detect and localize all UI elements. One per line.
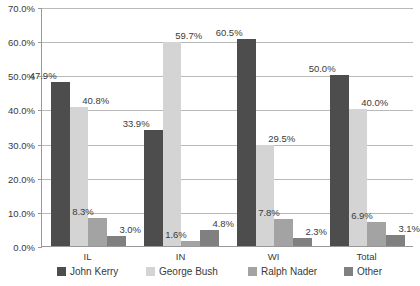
y-tickmark [38,8,42,9]
bar[interactable] [330,75,349,246]
bar[interactable] [144,130,163,246]
y-tickmark [38,42,42,43]
bar[interactable] [256,145,275,246]
y-tickmark [38,145,42,146]
bar[interactable] [51,82,70,246]
legend-item[interactable]: Other [344,266,382,277]
bar[interactable] [293,238,312,246]
legend-swatch-icon [146,267,155,276]
legend-label: John Kerry [70,266,118,277]
y-axis: 0.0%10.0%20.0%30.0%40.0%50.0%60.0%70.0% [0,8,38,247]
legend-item[interactable]: John Kerry [57,266,118,277]
bar[interactable] [386,235,405,246]
y-tick-label: 10.0% [8,207,35,218]
y-tick-label: 40.0% [8,105,35,116]
bar[interactable] [88,218,107,246]
bar-value-label: 50.0% [309,63,336,74]
bar-value-label: 40.8% [82,95,109,106]
bar-value-label: 3.0% [119,224,141,235]
bar[interactable] [349,109,368,246]
bar[interactable] [107,236,126,246]
y-tickmark [38,213,42,214]
bar-chart: 0.0%10.0%20.0%30.0%40.0%50.0%60.0%70.0% … [0,0,420,286]
y-tick-label: 20.0% [8,173,35,184]
y-tickmark [38,110,42,111]
legend-swatch-icon [344,267,353,276]
bar[interactable] [274,219,293,246]
bar[interactable] [163,42,182,246]
bar-value-label: 1.6% [165,229,187,240]
bar-value-label: 40.0% [361,97,388,108]
bar[interactable] [200,230,219,246]
bar-value-label: 47.9% [30,70,57,81]
legend-label: Other [357,266,382,277]
x-tick-label: WI [227,251,320,262]
bar-value-label: 8.3% [72,206,94,217]
y-tickmark [38,179,42,180]
x-tick-label: Total [320,251,413,262]
bar-value-label: 7.8% [258,207,280,218]
legend-swatch-icon [248,267,257,276]
x-tick-label: IL [41,251,134,262]
bar-value-label: 33.9% [123,118,150,129]
y-tick-label: 60.0% [8,37,35,48]
bar-value-label: 2.3% [305,226,327,237]
y-tick-label: 0.0% [13,242,35,253]
legend-swatch-icon [57,267,66,276]
legend-label: Ralph Nader [261,266,317,277]
bar-group [144,8,218,246]
legend-label: George Bush [159,266,218,277]
bar-value-label: 59.7% [175,30,202,41]
x-tick-label: IN [134,251,227,262]
legend-item[interactable]: George Bush [146,266,218,277]
bar-value-label: 3.1% [398,223,420,234]
bar-group-bars [144,8,218,246]
y-tick-label: 30.0% [8,139,35,150]
bar-value-label: 6.9% [351,210,373,221]
bar[interactable] [181,241,200,246]
y-tick-label: 70.0% [8,3,35,14]
chart-legend: John KerryGeorge BushRalph NaderOther [0,266,420,284]
bar[interactable] [367,222,386,246]
bar[interactable] [70,107,89,246]
legend-item[interactable]: Ralph Nader [248,266,317,277]
bar-value-label: 29.5% [268,133,295,144]
bar-value-label: 60.5% [216,27,243,38]
bar-value-label: 4.8% [212,218,234,229]
y-tickmark [38,247,42,248]
bar[interactable] [237,39,256,246]
